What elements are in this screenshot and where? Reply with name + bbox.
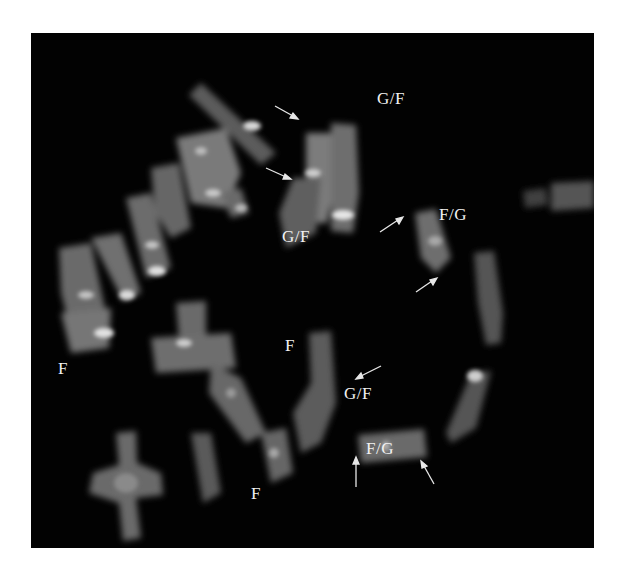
- microscopy-image-panel: G/F G/F F/G F F G/F F/G F: [31, 33, 594, 548]
- label-f-center: F: [285, 337, 295, 354]
- label-g-f-top-center: G/F: [282, 228, 310, 245]
- label-f-left: F: [58, 360, 68, 377]
- label-g-f-bottom: G/F: [344, 385, 372, 402]
- label-f-g-right: F/G: [439, 206, 467, 223]
- label-g-f-top-right: G/F: [377, 90, 405, 107]
- chromosome-spread: [31, 33, 594, 548]
- chromosome-bodies: [59, 83, 594, 541]
- label-f-g-bottom: F/G: [366, 440, 394, 457]
- label-f-bottom: F: [251, 485, 261, 502]
